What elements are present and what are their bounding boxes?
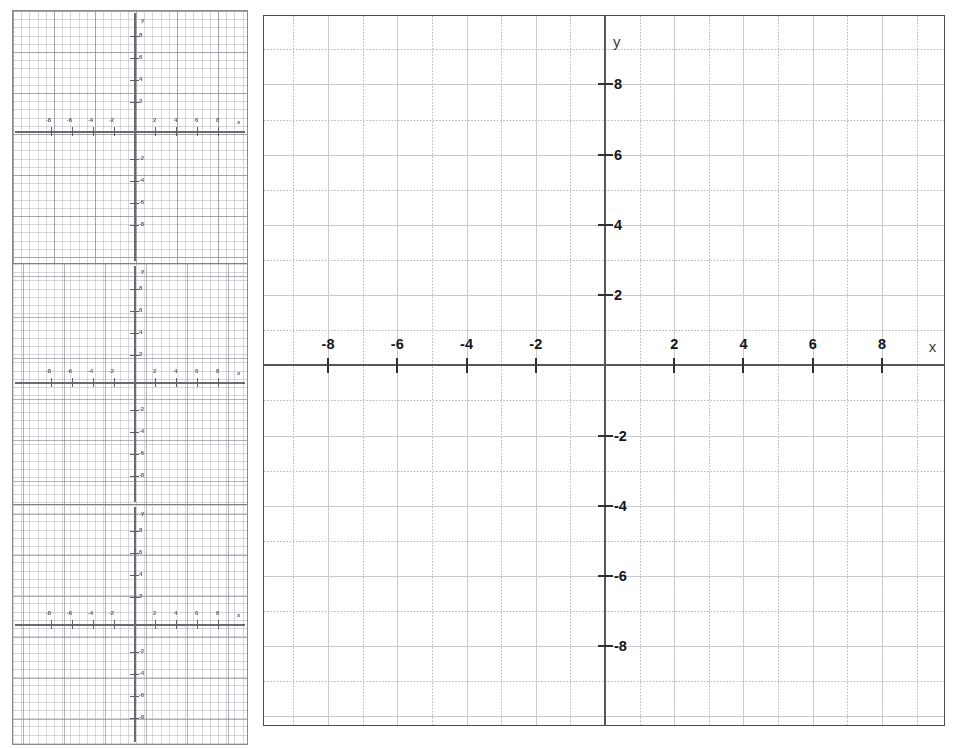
thumb1-y-tick	[130, 80, 139, 81]
gridline-major-horizontal	[264, 84, 944, 85]
thumb3-x-tick	[176, 620, 177, 629]
thumb1-x-tick	[176, 127, 177, 136]
gridline-major-horizontal	[264, 716, 944, 717]
x-tick-label-neg8: -8	[322, 337, 335, 352]
thumb1-x-tick	[72, 127, 73, 136]
gridline-minor-horizontal	[264, 120, 944, 121]
thumb3-x-tick	[93, 620, 94, 629]
gridline-minor-horizontal	[264, 611, 944, 612]
gridline-minor-horizontal	[264, 49, 944, 50]
gridline-minor-vertical	[847, 16, 848, 725]
gridline-major-vertical	[536, 16, 537, 725]
thumb3-x-axis	[15, 624, 245, 626]
thumb1-y-label-n8: -8	[139, 221, 144, 227]
thumb2-y-label-n4: -4	[139, 428, 144, 434]
thumb2-x-tick	[93, 378, 94, 387]
thumb1-x-label-2: 2	[153, 117, 156, 123]
thumb3-x-label-4: 4	[174, 610, 177, 616]
thumb3-x-tick	[155, 620, 156, 629]
x-tick-neg6	[396, 358, 398, 373]
gridline-minor-vertical	[709, 16, 710, 725]
thumb2-x-label-4: 4	[174, 368, 177, 374]
gridline-major-vertical	[397, 16, 398, 725]
x-tick-2	[673, 358, 675, 373]
thumb2-y-tick	[130, 410, 139, 411]
worksheet-page: -8 -6 -4 -2 2 4 6 8 x 8 6 4 2 -2 -4 -6 -…	[0, 0, 961, 748]
thumb1-x-tick	[93, 127, 94, 136]
thumb1-y-tick	[130, 203, 139, 204]
thumb2-x-tick	[72, 378, 73, 387]
y-tick-neg6	[598, 575, 613, 577]
y-tick-label-2: 2	[614, 288, 622, 303]
thumb1-x-label-6: 6	[195, 117, 198, 123]
thumb3-y-label-4: 4	[139, 571, 142, 577]
thumb1-y-tick	[130, 36, 139, 37]
gridline-major-vertical	[328, 16, 329, 725]
gridline-major-vertical	[467, 16, 468, 725]
x-tick-4	[742, 358, 744, 373]
y-tick-neg2	[598, 435, 613, 437]
thumb3-y-label-6: 6	[139, 549, 142, 555]
thumb1-x-label-8: 8	[216, 117, 219, 123]
thumb1-y-tick	[130, 225, 139, 226]
gridline-major-horizontal	[264, 576, 944, 577]
thumb1-y-label-n6: -6	[139, 199, 144, 205]
thumb3-y-label-2: 2	[139, 593, 142, 599]
gridline-major-horizontal	[264, 225, 944, 226]
gridline-major-horizontal	[264, 155, 944, 156]
thumb2-x-label-6: 6	[195, 368, 198, 374]
y-tick-label-neg8: -8	[614, 639, 627, 654]
thumb3-x-label-2: 2	[153, 610, 156, 616]
axis-labels: -8-6-4-224688642-2-4-6-8xy	[264, 16, 944, 725]
gridline-major-horizontal	[264, 506, 944, 507]
thumbnail-strip[interactable]: -8 -6 -4 -2 2 4 6 8 x 8 6 4 2 -2 -4 -6 -…	[12, 10, 248, 745]
thumbnail-grid-2[interactable]: -8 -6 -4 -2 2 4 6 8 x 8 6 4 2 -2 -4 -6 -…	[13, 263, 247, 504]
thumb1-x-label-n2: -2	[109, 117, 114, 123]
thumb2-y-tick	[130, 454, 139, 455]
gridline-minor-vertical	[917, 16, 918, 725]
thumb3-y-label-n4: -4	[139, 670, 144, 676]
axes	[264, 16, 944, 725]
y-tick-label-6: 6	[614, 147, 622, 162]
thumb3-x-label-n2: -2	[109, 610, 114, 616]
x-axis-label: x	[929, 339, 937, 354]
thumb1-x-axis	[15, 131, 245, 133]
thumb2-major-grid	[13, 264, 247, 504]
thumb3-y-label-8: 8	[139, 527, 142, 533]
thumbnail-grid-1[interactable]: -8 -6 -4 -2 2 4 6 8 x 8 6 4 2 -2 -4 -6 -…	[13, 11, 247, 263]
thumb1-y-tick	[130, 102, 139, 103]
gridline-minor-vertical	[501, 16, 502, 725]
thumb3-x-tick	[51, 620, 52, 629]
coordinate-plane[interactable]: -8-6-4-224688642-2-4-6-8xy	[263, 15, 945, 726]
thumb2-x-tick	[114, 378, 115, 387]
gridline-minor-horizontal	[264, 190, 944, 191]
gridline-major-horizontal	[264, 295, 944, 296]
thumb3-y-tick	[130, 575, 139, 576]
thumb3-y-label-n6: -6	[139, 692, 144, 698]
thumbnail-grid-3[interactable]: -8 -6 -4 -2 2 4 6 8 x 8 6 4 2 -2 -4 -6 -…	[13, 504, 247, 744]
x-tick-label-neg2: -2	[529, 337, 542, 352]
thumb1-x-tick	[51, 127, 52, 136]
thumb1-x-tick	[155, 127, 156, 136]
x-axis	[264, 364, 945, 366]
thumb1-y-label-6: 6	[139, 54, 142, 60]
thumb2-x-label-n6: -6	[67, 368, 72, 374]
y-tick-4	[598, 224, 613, 226]
thumb1-y-label-4: 4	[139, 76, 142, 82]
grid-lines	[264, 16, 944, 725]
y-tick-neg8	[598, 645, 613, 647]
thumb1-y-label-8: 8	[139, 32, 142, 38]
thumb2-y-tick	[130, 311, 139, 312]
thumb2-y-tick	[130, 289, 139, 290]
gridline-minor-horizontal	[264, 260, 944, 261]
thumb1-x-axis-label: x	[237, 119, 240, 125]
thumb2-x-tick	[218, 378, 219, 387]
y-tick-8	[598, 83, 613, 85]
thumb3-x-label-6: 6	[195, 610, 198, 616]
gridline-major-vertical	[813, 16, 814, 725]
thumb3-x-label-n8: -8	[46, 610, 51, 616]
thumb3-y-tick	[130, 696, 139, 697]
x-tick-label-8: 8	[878, 337, 886, 352]
thumb3-y-tick	[130, 718, 139, 719]
thumb1-x-label-n6: -6	[67, 117, 72, 123]
